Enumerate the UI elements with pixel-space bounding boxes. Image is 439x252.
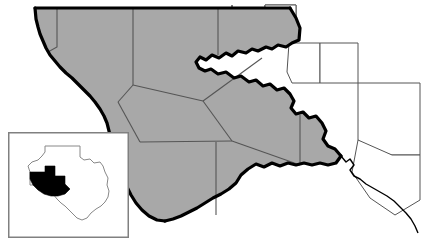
texas-locator-inset[interactable] <box>8 132 129 238</box>
map-figure <box>0 0 439 252</box>
neighbor-county-ne1[interactable] <box>287 43 320 83</box>
neighbor-county-ne2[interactable] <box>320 43 358 83</box>
locator-inset-svg <box>8 132 129 238</box>
